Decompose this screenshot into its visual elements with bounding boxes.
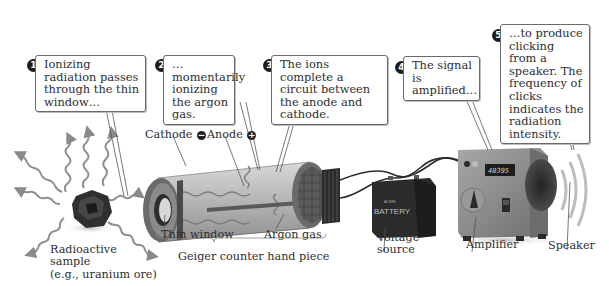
callout-step-1: Ionizing radiation passes through the th…	[35, 55, 146, 112]
label-anode: Anode +	[207, 129, 256, 141]
callout-step-4: The signal is amplified…	[403, 56, 480, 101]
label-voltage-source: Voltage source	[377, 232, 419, 257]
battery-label: BATTERY	[374, 207, 411, 216]
callout-step-5: …to produce clicking from a speaker. The…	[500, 24, 590, 144]
callout-step-2: …momentarily ionizing the argon gas.	[163, 55, 235, 125]
label-hand-piece: Geiger counter hand piece	[178, 251, 329, 263]
label-amplifier: Amplifier	[466, 239, 518, 251]
label-argon-gas: Argon gas	[264, 229, 322, 241]
amp-display: 40395	[488, 167, 509, 175]
label-thin-window: Thin window	[161, 229, 234, 241]
battery-brand: ACME	[384, 199, 396, 204]
plus-icon: +	[247, 131, 256, 140]
battery: ACME BATTERY	[372, 175, 436, 238]
label-sample: Radioactive sample (e.g., uranium ore)	[50, 244, 157, 281]
sound-waves	[562, 154, 586, 226]
callout-step-5-text: …to produce clicking from a speaker. The…	[509, 26, 584, 141]
callout-step-2-text: …momentarily ionizing the argon gas.	[172, 57, 245, 121]
label-cathode: Cathode −	[145, 129, 206, 141]
callout-step-3: The ions complete a circuit between the …	[271, 55, 388, 125]
callout-step-3-text: The ions complete a circuit between the …	[280, 57, 370, 121]
label-speaker: Speaker	[548, 240, 595, 252]
minus-icon: −	[197, 131, 206, 140]
uranium-ore-rock	[72, 190, 112, 228]
callout-step-4-text: The signal is amplified…	[412, 58, 477, 97]
callout-step-1-text: Ionizing radiation passes through the th…	[44, 57, 139, 109]
amplifier-box: 40395	[450, 148, 560, 246]
